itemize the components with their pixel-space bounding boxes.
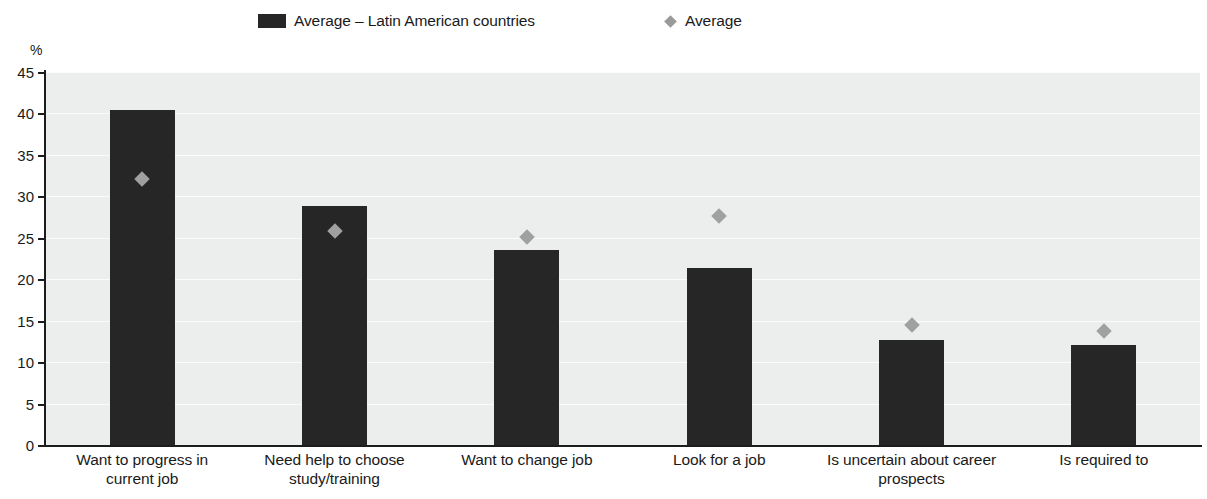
- y-axis-tick-label: 15: [2, 312, 34, 329]
- x-axis-label-line: Need help to choose: [264, 451, 404, 468]
- bar: [687, 268, 752, 445]
- y-axis-tick-label: 10: [2, 354, 34, 371]
- legend-item-average-latin-american-countries[interactable]: Average – Latin American countries: [258, 8, 535, 34]
- x-axis-label-line: study/training: [289, 470, 380, 487]
- chart-legend: Average – Latin American countries Avera…: [46, 8, 1200, 38]
- legend-item-average[interactable]: Average: [664, 8, 742, 34]
- x-axis-category-label: Want to progress incurrent job: [46, 450, 238, 488]
- bar: [879, 340, 944, 445]
- gridline: [46, 404, 1200, 405]
- y-axis-tick: [38, 113, 46, 115]
- x-axis-label-line: Is uncertain about career: [827, 451, 996, 468]
- y-axis-tick: [38, 196, 46, 198]
- plot-area: [46, 72, 1200, 445]
- y-axis-tick: [38, 279, 46, 281]
- plot-background: [46, 72, 1200, 445]
- bar-swatch-icon: [258, 14, 286, 28]
- gridline: [46, 321, 1200, 322]
- chart-figure: Average – Latin American countries Avera…: [0, 0, 1207, 499]
- y-axis-tick: [38, 72, 46, 74]
- y-axis-tick: [38, 362, 46, 364]
- bar: [302, 206, 367, 445]
- y-axis-tick-label: 5: [2, 395, 34, 412]
- x-axis-category-label: Is uncertain about careerprospects: [815, 450, 1007, 488]
- diamond-swatch-icon: [664, 15, 677, 28]
- y-axis-tick-labels: 051015202530354045: [0, 0, 34, 499]
- y-axis-tick: [38, 404, 46, 406]
- x-axis-line: [44, 445, 1202, 447]
- legend-label: Average: [685, 12, 742, 30]
- y-axis-line: [44, 70, 46, 447]
- x-axis-label-line: Is required to: [1059, 451, 1148, 468]
- x-axis-label-line: prospects: [878, 470, 944, 487]
- y-axis-tick-label: 25: [2, 229, 34, 246]
- x-axis-label-line: Want to progress in: [76, 451, 208, 468]
- gridline: [46, 279, 1200, 280]
- bar: [1071, 345, 1136, 445]
- x-axis-label-line: Look for a job: [673, 451, 766, 468]
- bar: [494, 250, 559, 445]
- gridline: [46, 238, 1200, 239]
- x-axis-label-line: current job: [106, 470, 178, 487]
- x-axis-label-line: Want to change job: [461, 451, 592, 468]
- y-axis-tick-label: 40: [2, 105, 34, 122]
- gridline: [46, 155, 1200, 156]
- gridline: [46, 362, 1200, 363]
- legend-label: Average – Latin American countries: [294, 12, 535, 30]
- gridline: [46, 113, 1200, 114]
- y-axis-tick-label: 0: [2, 437, 34, 454]
- y-axis-tick-label: 45: [2, 64, 34, 81]
- y-axis-tick-label: 20: [2, 271, 34, 288]
- gridline: [46, 72, 1200, 73]
- bar: [110, 110, 175, 445]
- x-axis-category-labels: Want to progress incurrent jobNeed help …: [46, 450, 1200, 499]
- x-axis-category-label: Is required to: [1008, 450, 1200, 469]
- x-axis-category-label: Need help to choosestudy/training: [238, 450, 430, 488]
- gridline: [46, 196, 1200, 197]
- y-axis-tick: [38, 155, 46, 157]
- y-axis-tick: [38, 238, 46, 240]
- y-axis-tick: [38, 445, 46, 447]
- x-axis-category-label: Want to change job: [431, 450, 623, 469]
- y-axis-tick-label: 35: [2, 146, 34, 163]
- x-axis-category-label: Look for a job: [623, 450, 815, 469]
- y-axis-tick: [38, 321, 46, 323]
- y-axis-tick-label: 30: [2, 188, 34, 205]
